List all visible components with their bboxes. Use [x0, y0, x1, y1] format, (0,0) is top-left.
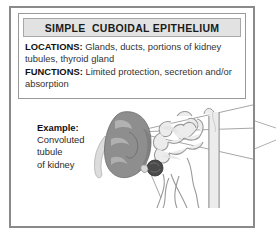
figure-frame: SIMPLE CUBOIDAL EPITHELIUM LOCATIONS: Gl…	[9, 6, 255, 228]
collecting-duct	[204, 108, 219, 208]
convoluted-tubules	[153, 112, 203, 164]
locations-line: LOCATIONS: Glands, ducts, portions of ki…	[25, 41, 241, 66]
example-lead: Example:	[37, 122, 103, 134]
example-line-3: of kidney	[37, 159, 103, 171]
info-body: LOCATIONS: Glands, ducts, portions of ki…	[25, 41, 241, 91]
magnification-leader-lines	[133, 104, 255, 198]
tissue-type-figure: SIMPLE CUBOIDAL EPITHELIUM LOCATIONS: Gl…	[0, 0, 276, 243]
locations-label: LOCATIONS:	[25, 41, 83, 52]
nephron-tubule	[141, 108, 219, 208]
example-line-2: tubule	[37, 146, 103, 158]
functions-label: FUNCTIONS:	[25, 66, 83, 77]
example-caption: Example: Convoluted tubule of kidney	[37, 122, 103, 171]
figure-title-band: SIMPLE CUBOIDAL EPITHELIUM	[23, 18, 241, 37]
functions-line: FUNCTIONS: Limited protection, secretion…	[25, 66, 241, 91]
example-line-1: Convoluted	[37, 134, 103, 146]
figure-title: SIMPLE CUBOIDAL EPITHELIUM	[45, 22, 220, 34]
loop-of-henle	[157, 158, 199, 208]
info-box: SIMPLE CUBOIDAL EPITHELIUM LOCATIONS: Gl…	[18, 13, 246, 99]
